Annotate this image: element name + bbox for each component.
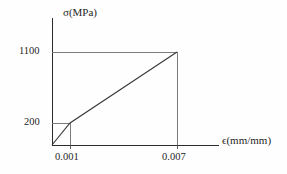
stress-strain-figure: σ(MPa) ϵ(mm/mm) 1100 200 0.001 0.007 xyxy=(0,0,287,174)
y-tick-label-200: 200 xyxy=(24,117,40,128)
x-tick-label-0001: 0.001 xyxy=(55,152,79,163)
x-axis-title: ϵ(mm/mm) xyxy=(222,135,271,146)
y-axis-title: σ(MPa) xyxy=(63,7,97,18)
plot-area xyxy=(0,0,287,174)
y-tick-label-1100: 1100 xyxy=(19,46,40,57)
stress-strain-curve xyxy=(52,52,177,145)
x-tick-label-0007: 0.007 xyxy=(162,152,186,163)
